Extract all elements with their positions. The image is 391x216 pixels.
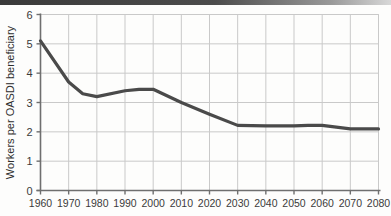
x-axis-tick-label: 1980 — [85, 197, 109, 209]
x-axis-tick-label: 2070 — [339, 197, 363, 209]
y-axis-tick-label: 5 — [26, 38, 32, 50]
x-axis-tick-label: 2030 — [226, 197, 250, 209]
x-axis-tick-label: 2040 — [254, 197, 278, 209]
x-axis-tick-label: 2020 — [198, 197, 222, 209]
y-axis-tick-label: 0 — [26, 185, 32, 197]
grid-lines — [41, 15, 379, 191]
y-axis-title-label: Workers per OASDI beneficiary — [4, 25, 16, 179]
x-axis-tick-label: 1990 — [113, 197, 137, 209]
y-axis-tick-labels: 0123456 — [26, 9, 32, 197]
x-axis-tick-label: 2080 — [367, 197, 391, 209]
x-axis-tick-label: 2000 — [141, 197, 165, 209]
y-axis-tick-label: 6 — [26, 9, 32, 21]
x-axis-tick-label: 1960 — [29, 197, 53, 209]
x-axis-tick-label: 2060 — [310, 197, 334, 209]
chart-figure: 0123456 19601970198019902000201020202030… — [0, 0, 391, 216]
x-axis-tick-labels: 1960197019801990200020102020203020402050… — [29, 197, 391, 209]
line-chart: 0123456 19601970198019902000201020202030… — [0, 0, 391, 216]
x-axis-tick-label: 2010 — [170, 197, 194, 209]
y-axis-tick-label: 2 — [26, 126, 32, 138]
x-axis-tick-label: 1970 — [57, 197, 81, 209]
y-axis-tick-label: 1 — [26, 155, 32, 167]
y-axis-title: Workers per OASDI beneficiary — [4, 25, 16, 179]
y-axis-tick-label: 3 — [26, 97, 32, 109]
x-axis-tick-label: 2050 — [282, 197, 306, 209]
axis-ticks — [37, 15, 379, 195]
y-axis-tick-label: 4 — [26, 67, 32, 79]
